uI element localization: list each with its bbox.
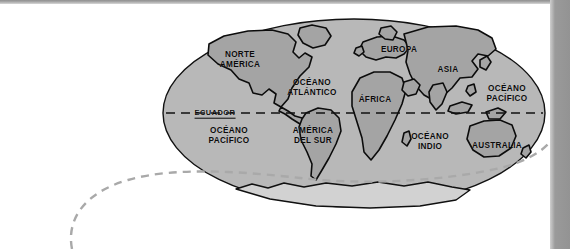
map-label-australia: AUSTRALIA (472, 141, 522, 151)
right-edge-bar (550, 0, 570, 249)
annotation-curve (0, 0, 570, 249)
map-label-africa: ÁFRICA (359, 95, 392, 105)
map-label-oceano-pacifico-oeste: OCÉANO PACÍFICO (209, 126, 250, 145)
map-label-oceano-indico: OCÉANO INDIO (411, 132, 449, 151)
map-label-ecuador: ECUADOR (195, 108, 236, 119)
map-label-europa: EUROPA (381, 45, 417, 55)
map-label-oceano-pacifico-este: OCÉANO PACÍFICO (487, 84, 528, 103)
world-map-figure: NORTE AMÉRICAOCÉANO ATLÁNTICOEUROPAASIAO… (0, 0, 570, 249)
map-label-oceano-atlantico: OCÉANO ATLÁNTICO (287, 78, 336, 97)
map-label-norte-america: NORTE AMÉRICA (220, 50, 260, 69)
map-label-asia: ASIA (438, 65, 459, 75)
annotation-curve-path (71, 138, 553, 249)
map-label-america-del-sur: AMÉRICA DEL SUR (293, 126, 333, 145)
